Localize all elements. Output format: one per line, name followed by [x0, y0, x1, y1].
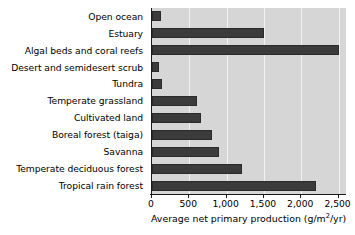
plot-area [151, 8, 346, 194]
axis-tick [300, 194, 301, 198]
bar [152, 130, 212, 140]
bar [152, 45, 339, 55]
axis-tick [226, 194, 227, 198]
x-axis-title: Average net primary production (g/m2/yr) [151, 214, 345, 223]
axis-tick [188, 194, 189, 198]
value-axis: 05001,0001,5002,0002,500 [151, 194, 345, 214]
category-label: Desert and semidesert scrub [0, 59, 147, 76]
bar [152, 164, 242, 174]
category-label: Boreal forest (taiga) [0, 126, 147, 143]
bar [152, 113, 201, 123]
bar [152, 96, 197, 106]
category-label: Open ocean [0, 8, 147, 25]
category-label: Algal beds and coral reefs [0, 42, 147, 59]
category-label: Temperate grassland [0, 93, 147, 110]
bar-row [152, 76, 346, 93]
category-label: Tropical rain forest [0, 177, 147, 194]
category-label: Savanna [0, 143, 147, 160]
bar-row [152, 109, 346, 126]
bar-row [152, 25, 346, 42]
axis-tick-label: 500 [180, 199, 198, 208]
bar-row [152, 143, 346, 160]
axis-tick [338, 194, 339, 198]
bar [152, 62, 159, 72]
bar [152, 79, 162, 89]
axis-tick [263, 194, 264, 198]
category-label: Tundra [0, 76, 147, 93]
axis-tick-label: 0 [148, 199, 154, 208]
bar-row [152, 177, 346, 194]
category-label: Cultivated land [0, 109, 147, 126]
category-label: Estuary [0, 25, 147, 42]
x-axis-title-suffix: /yr) [330, 213, 346, 224]
bar-chart: Open oceanEstuaryAlgal beds and coral re… [0, 0, 355, 235]
bar-series [152, 8, 346, 194]
axis-tick [151, 194, 152, 198]
axis-tick-label: 1,500 [250, 199, 276, 208]
bar-row [152, 160, 346, 177]
bar [152, 147, 219, 157]
x-axis-title-prefix: Average net primary production (g/m [151, 213, 326, 224]
bar-row [152, 126, 346, 143]
category-label: Temperate deciduous forest [0, 160, 147, 177]
axis-tick-label: 1,000 [212, 199, 238, 208]
bar [152, 181, 316, 191]
bar [152, 28, 264, 38]
bar-row [152, 93, 346, 110]
category-axis: Open oceanEstuaryAlgal beds and coral re… [0, 8, 147, 194]
bar [152, 11, 161, 21]
bar-row [152, 8, 346, 25]
bar-row [152, 42, 346, 59]
axis-tick-label: 2,500 [324, 199, 350, 208]
bar-row [152, 59, 346, 76]
axis-tick-label: 2,000 [287, 199, 313, 208]
